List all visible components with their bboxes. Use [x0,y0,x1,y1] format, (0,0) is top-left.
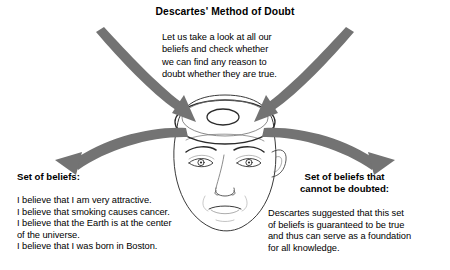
arrow-out-left-shaft [72,128,188,170]
arrow-in-right-shaft [269,27,354,110]
eyebrow-right [234,147,264,152]
nose-bridge [216,155,224,188]
mouth-line [209,206,241,209]
chin-crease [216,220,234,222]
center-caption-text: Let us take a look at all our beliefs an… [162,31,277,81]
left-beliefs-list: I believe that I am very attractive. I b… [17,195,172,253]
nose-tip [216,188,235,196]
pupil-right [248,161,250,163]
right-heading: Set of beliefs that cannot be doubted: [300,171,389,196]
arrow-out-right-shaft [262,128,378,170]
skull-opening-rim [182,100,268,136]
eyebrow-left [186,147,216,152]
ear-shape [272,150,286,177]
cheek-left [203,196,208,211]
open-skull-top [175,100,275,144]
skull-cavity-inner [207,109,239,125]
pupil-left [200,161,202,163]
cheek-right [242,196,247,211]
lower-lip [211,210,239,214]
skull-opening-outer [175,100,275,144]
right-explanation-text: Descartes suggested that this set of bel… [268,208,411,254]
page-title: Descartes' Method of Doubt [0,6,450,18]
left-heading: Set of beliefs: [17,171,80,183]
descartes-method-of-doubt-figure: Descartes' Method of Doubt Let us take a… [0,0,450,270]
